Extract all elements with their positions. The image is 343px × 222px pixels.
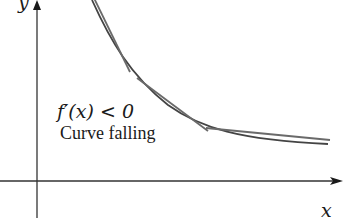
curve-caption: Curve falling: [60, 123, 155, 144]
derivative-condition-label: f′(x) < 0: [57, 100, 134, 122]
y-axis: [33, 0, 41, 218]
x-axis: [0, 177, 343, 185]
x-axis-label: x: [321, 199, 332, 221]
falling-curve-diagram: [0, 0, 343, 222]
y-axis-arrow-icon: [33, 0, 41, 10]
tangent-line-1: [93, 0, 130, 72]
y-axis-label: y: [18, 0, 29, 13]
